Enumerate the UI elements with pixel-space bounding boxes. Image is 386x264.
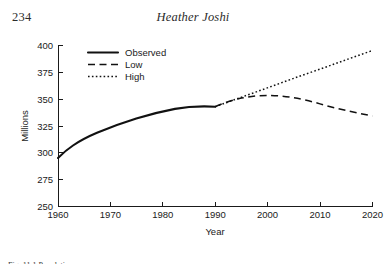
x-tick-label: 1980 [152, 209, 173, 220]
axis-lines [58, 46, 373, 207]
line-chart: 250 275 300 325 350 375 400 1960 1970 19… [0, 28, 386, 264]
y-tick-label: 375 [37, 67, 53, 78]
x-tick-label: 1970 [100, 209, 121, 220]
x-tick-label: 2010 [309, 209, 330, 220]
y-tick-label: 350 [37, 94, 53, 105]
legend-label-high: High [125, 71, 145, 82]
y-tick-label: 400 [37, 40, 53, 51]
y-axis-title: Millions [19, 110, 30, 142]
x-tick-label: 1960 [47, 209, 68, 220]
series-line-low [215, 95, 372, 116]
x-tick-label: 2000 [257, 209, 278, 220]
series-line-observed [58, 106, 215, 157]
x-tick-label: 1990 [205, 209, 226, 220]
y-axis-tick-labels: 250 275 300 325 350 375 400 [37, 40, 53, 212]
legend-label-observed: Observed [125, 47, 166, 58]
x-axis-title: Year [205, 226, 224, 237]
y-axis-ticks [58, 46, 63, 207]
legend-label-low: Low [125, 59, 143, 70]
y-tick-label: 325 [37, 121, 53, 132]
y-tick-label: 275 [37, 174, 53, 185]
figure-population-projection: 250 275 300 325 350 375 400 1960 1970 19… [0, 28, 386, 264]
x-axis-ticks [58, 202, 373, 207]
x-tick-label: 2020 [362, 209, 383, 220]
legend: Observed Low High [88, 47, 166, 82]
x-axis-tick-labels: 1960 1970 1980 1990 2000 2010 2020 [47, 209, 383, 220]
y-tick-label: 300 [37, 147, 53, 158]
running-title: Heather Joshi [0, 10, 386, 25]
